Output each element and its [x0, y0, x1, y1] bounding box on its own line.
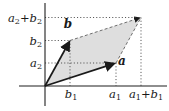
label-b2: b2: [30, 34, 42, 50]
parallelogram-region: [45, 18, 141, 87]
label-b1: b1: [65, 87, 77, 103]
label-vector-a: a: [118, 54, 126, 68]
label-a1: a1: [109, 87, 121, 103]
vector-addition-diagram: a2+b2 b2 a2 b1 a1 a1+b1 b a: [0, 0, 169, 111]
label-a2: a2: [30, 56, 42, 72]
label-a2-plus-b2: a2+b2: [8, 11, 42, 27]
label-a1-plus-b1: a1+b1: [129, 87, 163, 103]
label-vector-b: b: [64, 17, 72, 31]
vector-addition-figure: a2+b2 b2 a2 b1 a1 a1+b1 b a: [0, 0, 169, 111]
